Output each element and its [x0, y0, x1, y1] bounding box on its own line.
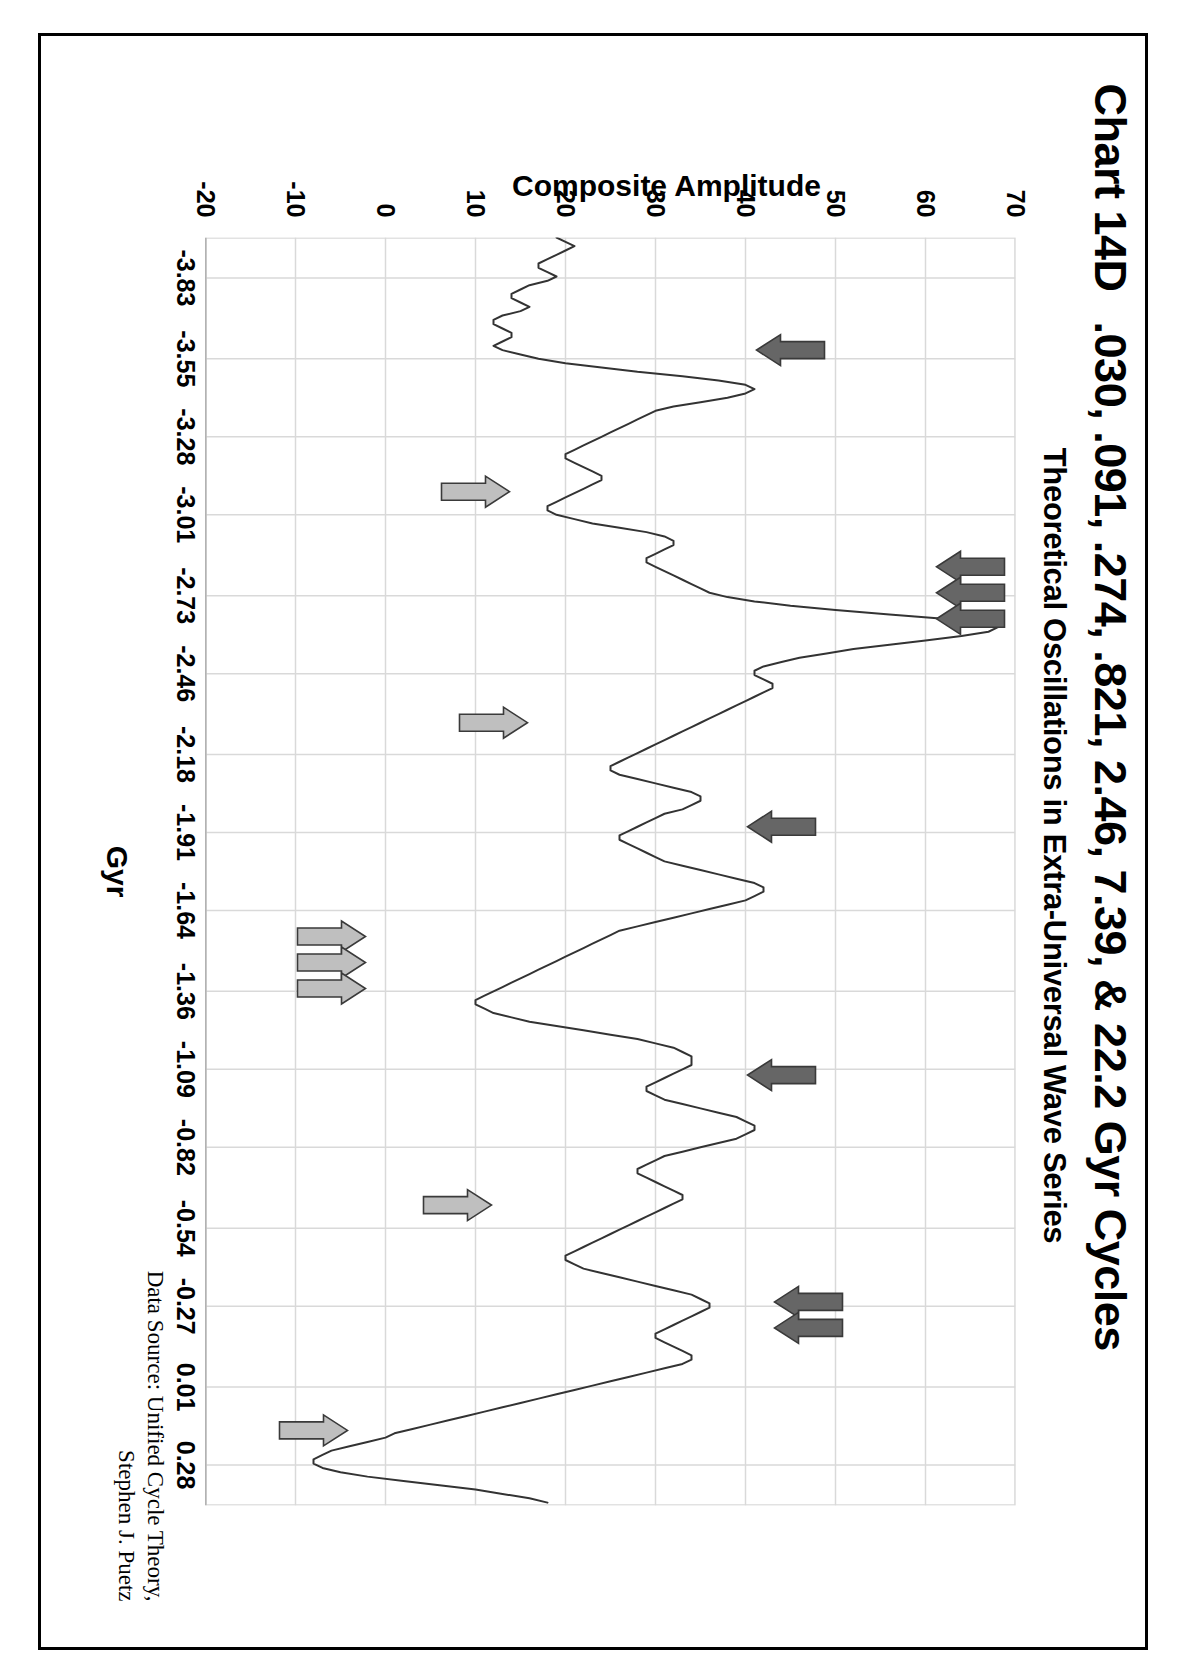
annotation-arrow [775, 1286, 843, 1317]
annotation-arrow-single-light-2 [460, 707, 528, 738]
annotation-arrow [775, 1312, 843, 1343]
data-source-note: Data Source: Unified Cycle Theory, Steph… [111, 961, 169, 1601]
annotation-arrow-single-light-4 [280, 1414, 348, 1445]
y-axis-tick-labels: 706050403020100-10-20 [206, 105, 1016, 227]
x-tick-label: -2.73 [171, 567, 200, 624]
x-tick-label: -3.01 [171, 486, 200, 543]
annotation-arrow [298, 973, 366, 1004]
x-tick-label: -2.18 [171, 726, 200, 783]
annotation-arrow [937, 577, 1005, 608]
annotation-arrow [748, 811, 816, 842]
annotation-arrow-triple-dark [937, 551, 1005, 634]
plot-svg [206, 237, 1016, 1505]
x-tick-label: -0.82 [171, 1118, 200, 1175]
x-tick-label: -1.91 [171, 804, 200, 861]
x-tick-label: -3.55 [171, 330, 200, 387]
annotation-arrow [424, 1189, 492, 1220]
annotation-arrow [757, 334, 825, 365]
annotation-arrow [280, 1414, 348, 1445]
page-title: .030, .091, .274, .821, 2.46, 7.39, & 22… [1085, 321, 1136, 1350]
y-axis-title: Composite Amplitude [317, 168, 1017, 202]
chart-title-row: Chart 14D.030, .091, .274, .821, 2.46, 7… [1084, 65, 1136, 1625]
chart-frame: Chart 14D.030, .091, .274, .821, 2.46, 7… [38, 33, 1148, 1650]
y-tick-label: 0 [371, 203, 400, 217]
annotation-arrow-single-light-3 [424, 1189, 492, 1220]
annotation-arrow [748, 1059, 816, 1090]
x-tick-label: -1.09 [171, 1040, 200, 1097]
plot-border [206, 238, 1015, 1505]
annotation-arrow [298, 947, 366, 978]
data-source-line-2: Stephen J. Puetz [111, 961, 140, 1601]
x-tick-label: -0.54 [171, 1199, 200, 1256]
x-tick-label: -1.36 [171, 962, 200, 1019]
annotation-arrow-single-dark-1 [757, 334, 825, 365]
annotation-arrow [937, 551, 1005, 582]
annotation-arrow-single-dark-2 [748, 811, 816, 842]
y-tick-label: -10 [281, 181, 310, 217]
x-tick-label: -0.27 [171, 1277, 200, 1334]
x-tick-label: 0.28 [171, 1440, 200, 1489]
annotation-arrow-single-dark-3 [748, 1059, 816, 1090]
annotation-arrow-triple-light [298, 921, 366, 1004]
annotation-arrow [460, 707, 528, 738]
chart-number: Chart 14D [1085, 83, 1136, 291]
chart-subtitle: Theoretical Oscillations in Extra-Univer… [1036, 65, 1072, 1625]
chart-rotation-wrapper: Chart 14D.030, .091, .274, .821, 2.46, 7… [41, 36, 1151, 1653]
annotation-arrow [298, 921, 366, 952]
y-tick-label: -20 [191, 181, 220, 217]
x-tick-label: -3.28 [171, 408, 200, 465]
data-source-line-1: Data Source: Unified Cycle Theory, [140, 961, 169, 1601]
x-tick-label: -3.83 [171, 249, 200, 306]
x-tick-label: -2.46 [171, 645, 200, 702]
x-tick-label: 0.01 [171, 1362, 200, 1411]
x-tick-label: -1.64 [171, 881, 200, 938]
annotation-arrow-double-dark [775, 1286, 843, 1343]
plot-area [206, 237, 1016, 1505]
chart-canvas: Chart 14D.030, .091, .274, .821, 2.46, 7… [49, 65, 1144, 1625]
